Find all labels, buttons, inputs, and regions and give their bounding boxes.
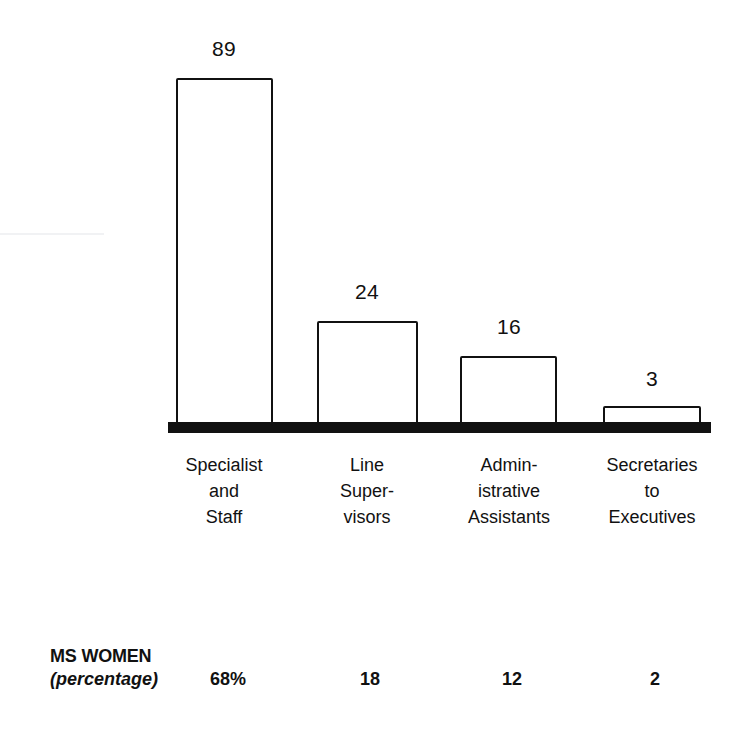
category-label-line: Specialist xyxy=(164,452,284,478)
category-label-line: visors xyxy=(307,504,427,530)
axis-baseline xyxy=(168,422,711,433)
category-label-line: Admin- xyxy=(449,452,569,478)
category-label-line: Executives xyxy=(592,504,712,530)
annotation-value-1: 68% xyxy=(178,668,278,691)
bar-value-label-3: 16 xyxy=(459,316,559,337)
annotation-value-2: 18 xyxy=(320,668,420,691)
plot-area: 89 24 16 3 xyxy=(0,0,746,445)
category-label-line: and xyxy=(164,478,284,504)
annotation-row-title: MS WOMEN xyxy=(50,645,151,668)
category-label-secretaries-to-executives: Secretaries to Executives xyxy=(592,452,712,530)
bar-specialist-and-staff[interactable] xyxy=(176,78,273,427)
bar-value-label-4: 3 xyxy=(602,368,702,389)
bar-value-label-1: 89 xyxy=(174,38,274,59)
category-label-line: Line xyxy=(307,452,427,478)
category-label-administrative-assistants: Admin- istrative Assistants xyxy=(449,452,569,530)
category-label-line-supervisors: Line Super- visors xyxy=(307,452,427,530)
category-label-line: Secretaries xyxy=(592,452,712,478)
annotation-row: MS WOMEN (percentage) 68% 18 12 2 xyxy=(0,645,746,705)
bar-administrative-assistants[interactable] xyxy=(460,356,557,427)
annotation-value-3: 12 xyxy=(462,668,562,691)
bar-line-supervisors[interactable] xyxy=(317,321,418,427)
category-label-line: Assistants xyxy=(449,504,569,530)
category-label-line: Staff xyxy=(164,504,284,530)
bar-chart: 89 24 16 3 Specialist and Staff Line Sup… xyxy=(0,0,746,756)
bar-value-label-2: 24 xyxy=(317,281,417,302)
category-label-line: Super- xyxy=(307,478,427,504)
annotation-value-4: 2 xyxy=(605,668,705,691)
annotation-row-subtitle: (percentage) xyxy=(50,668,158,691)
category-label-specialist-and-staff: Specialist and Staff xyxy=(164,452,284,530)
category-label-line: to xyxy=(592,478,712,504)
category-axis-labels: Specialist and Staff Line Super- visors … xyxy=(0,452,746,552)
category-label-line: istrative xyxy=(449,478,569,504)
